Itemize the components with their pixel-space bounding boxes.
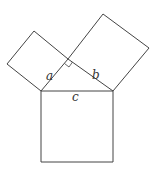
label-b: b [92,68,100,82]
label-c: c [72,90,79,104]
right-angle-marker [65,62,73,67]
label-a: a [46,69,53,83]
square-on-a [7,31,68,91]
square-on-b [68,14,149,91]
pythagoras-diagram: a b c [0,0,157,173]
